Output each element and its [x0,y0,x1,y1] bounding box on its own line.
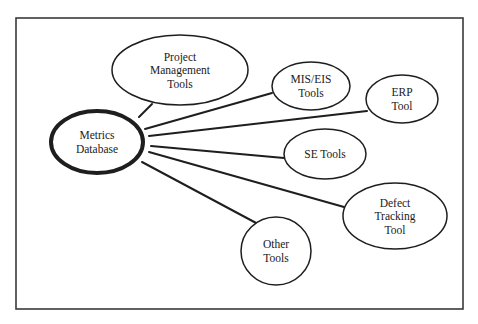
node-project-management-tools-label-line: Project [164,51,197,64]
node-erp-tool-label-line: ERP [391,86,412,98]
node-metrics-database-label-line: Database [76,143,118,155]
node-defect-tracking-tool-label-line: Defect [380,197,411,209]
node-erp-tool[interactable]: ERPTool [366,75,438,123]
node-project-management-tools-label-line: Management [150,64,211,77]
node-metrics-database-label-line: Metrics [79,129,115,141]
node-erp-tool-label-line: Tool [392,100,413,112]
node-se-tools-label-line: SE Tools [304,148,346,160]
diagram-canvas: ProjectManagementToolsMIS/EISToolsERPToo… [0,0,478,324]
node-other-tools[interactable]: OtherTools [241,217,311,285]
node-other-tools-label-line: Other [263,238,289,250]
node-mis-eis-tools-label-line: Tools [298,87,324,99]
hub-group: MetricsDatabase [51,111,143,173]
edge-other-tools [142,162,258,224]
node-mis-eis-tools-label-line: MIS/EIS [291,73,332,85]
edge-project-management-tools [139,104,152,117]
edge-se-tools [151,146,284,158]
node-defect-tracking-tool-label-line: Tracking [374,210,415,223]
node-mis-eis-tools[interactable]: MIS/EISTools [272,62,350,110]
node-defect-tracking-tool-label-line: Tool [385,224,406,236]
node-project-management-tools-label-line: Tools [167,78,193,90]
node-defect-tracking-tool[interactable]: DefectTrackingTool [343,183,447,249]
node-se-tools[interactable]: SE Tools [284,129,366,179]
node-other-tools-label-line: Tools [263,252,289,264]
nodes-group: ProjectManagementToolsMIS/EISToolsERPToo… [112,35,447,285]
node-project-management-tools[interactable]: ProjectManagementTools [112,35,248,105]
node-metrics-database[interactable]: MetricsDatabase [51,111,143,173]
